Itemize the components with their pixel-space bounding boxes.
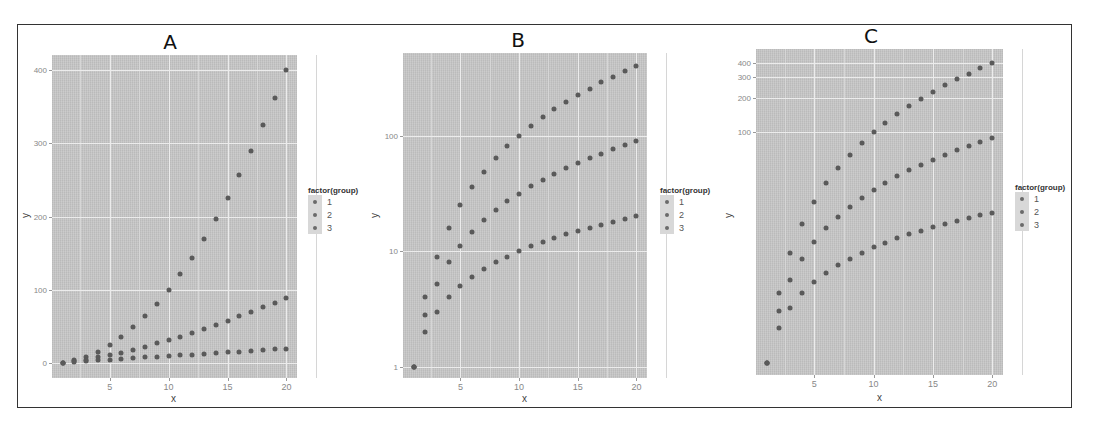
panel-b-title: B: [511, 28, 525, 52]
data-point: [225, 318, 230, 323]
data-point: [552, 171, 557, 176]
data-point: [260, 348, 265, 353]
panel-c-plot-area: [756, 49, 1003, 375]
gridline: [403, 136, 647, 137]
x-tick-mark: [933, 375, 934, 378]
data-point: [260, 305, 265, 310]
data-point: [435, 282, 440, 287]
x-tick-label: 20: [987, 379, 997, 389]
data-point: [213, 322, 218, 327]
data-point: [446, 260, 451, 265]
gridline: [52, 143, 297, 144]
gridline: [756, 63, 1003, 64]
panel-b-x-axis-label: x: [522, 393, 527, 404]
data-point: [990, 61, 995, 66]
data-point: [812, 280, 817, 285]
minor-gridline: [607, 53, 608, 378]
data-point: [213, 217, 218, 222]
data-point: [942, 152, 947, 157]
data-point: [201, 326, 206, 331]
data-point: [990, 210, 995, 215]
x-tick-mark: [636, 378, 637, 381]
minor-gridline: [490, 53, 491, 378]
x-tick-mark: [228, 378, 229, 381]
data-point: [237, 173, 242, 178]
data-point: [517, 133, 522, 138]
data-point: [919, 162, 924, 167]
data-point: [201, 237, 206, 242]
legend-item-3: 3: [308, 221, 358, 234]
data-point: [481, 267, 486, 272]
data-point: [237, 314, 242, 319]
data-point: [143, 355, 148, 360]
data-point: [178, 334, 183, 339]
data-point: [599, 80, 604, 85]
y-tick-mark: [49, 363, 52, 364]
data-point: [634, 139, 639, 144]
legend-title: factor(group): [308, 186, 358, 195]
data-point: [930, 157, 935, 162]
data-point: [942, 221, 947, 226]
data-point: [166, 338, 171, 343]
data-point: [272, 96, 277, 101]
data-point: [812, 239, 817, 244]
y-tick-mark: [400, 136, 403, 137]
data-point: [435, 309, 440, 314]
panel-c-title: C: [864, 24, 878, 48]
data-point: [788, 305, 793, 310]
data-point: [249, 309, 254, 314]
x-tick-label: 10: [164, 382, 174, 392]
legend-item-2: 2: [660, 208, 710, 221]
data-point: [95, 349, 100, 354]
data-point: [575, 160, 580, 165]
data-point: [119, 356, 124, 361]
x-tick-mark: [169, 378, 170, 381]
gridline: [403, 251, 647, 252]
data-point: [178, 353, 183, 358]
data-point: [249, 149, 254, 154]
data-point: [835, 263, 840, 268]
legend-item-2: 2: [308, 208, 358, 221]
data-point: [859, 195, 864, 200]
panel-a-plot-area: [52, 55, 297, 378]
y-tick-mark: [753, 63, 756, 64]
data-point: [883, 120, 888, 125]
panel-b-plot-area: [403, 53, 647, 378]
data-point: [859, 250, 864, 255]
y-tick-label: 1: [368, 362, 398, 371]
x-tick-label: 5: [458, 382, 463, 392]
point-icon: [1015, 205, 1029, 218]
data-point: [824, 271, 829, 276]
data-point: [481, 169, 486, 174]
data-point: [446, 295, 451, 300]
data-point: [835, 214, 840, 219]
data-point: [930, 89, 935, 94]
data-point: [954, 148, 959, 153]
data-point: [154, 301, 159, 306]
data-point: [812, 199, 817, 204]
data-point: [990, 135, 995, 140]
data-point: [458, 203, 463, 208]
data-point: [528, 244, 533, 249]
data-point: [610, 147, 615, 152]
panel-a-title: A: [163, 30, 177, 54]
y-tick-mark: [400, 251, 403, 252]
data-point: [213, 351, 218, 356]
data-point: [978, 213, 983, 218]
data-point: [883, 240, 888, 245]
data-point: [119, 334, 124, 339]
data-point: [824, 181, 829, 186]
data-point: [107, 342, 112, 347]
data-point: [966, 216, 971, 221]
y-tick-label: 100: [368, 131, 398, 140]
y-tick-label: 10: [368, 247, 398, 256]
data-point: [835, 166, 840, 171]
point-icon: [1015, 192, 1029, 205]
data-point: [871, 245, 876, 250]
gridline: [52, 217, 297, 218]
data-point: [154, 354, 159, 359]
data-point: [966, 71, 971, 76]
data-point: [166, 287, 171, 292]
data-point: [411, 364, 416, 369]
data-point: [919, 96, 924, 101]
